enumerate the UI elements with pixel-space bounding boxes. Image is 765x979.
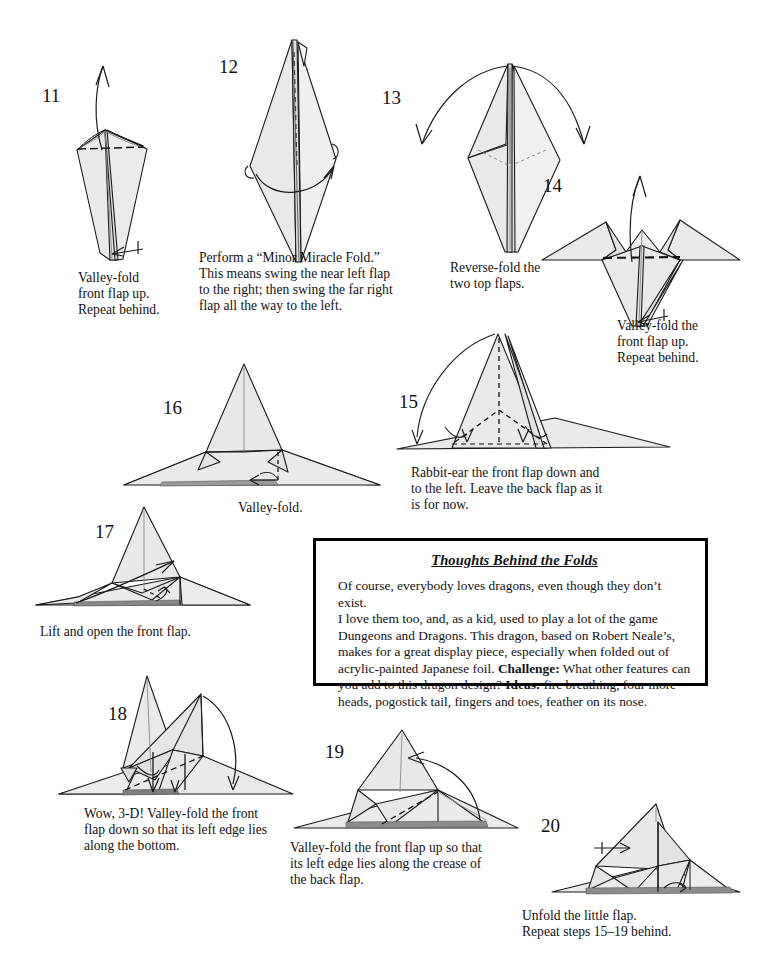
thoughts-line-6c: fire breathing, four more (540, 677, 676, 692)
thoughts-line-1: Of course, everybody loves dragons, even… (338, 578, 661, 610)
figure-step-19 (290, 728, 540, 843)
caption-step-19: Valley-fold the front flap up so that it… (290, 840, 482, 888)
figure-step-11 (55, 28, 195, 278)
instruction-page: 11 (0, 0, 765, 979)
figure-step-15 (395, 322, 700, 457)
step-number-12: 12 (219, 57, 238, 76)
caption-step-18: Wow, 3-D! Valley-fold the front flap dow… (84, 806, 267, 854)
figure-step-16 (110, 352, 400, 492)
thoughts-line-5c: What other features can (560, 661, 691, 676)
caption-step-20: Unfold the little flap. Repeat steps 15–… (522, 908, 672, 940)
caption-step-13: Reverse-fold the two top flaps. (450, 260, 540, 292)
thoughts-line-5a: acrylic-painted Japanese foil. (338, 661, 498, 676)
figure-step-14 (540, 150, 765, 330)
challenge-label: Challenge: (498, 661, 560, 676)
figure-step-20 (530, 800, 765, 905)
thoughts-box-body: Of course, everybody loves dragons, even… (338, 578, 691, 710)
thoughts-line-3: Dungeons and Dragons. This dragon, based… (338, 628, 675, 643)
thoughts-box-title: Thoughts Behind the Folds (338, 552, 691, 569)
caption-step-17: Lift and open the front flap. (40, 624, 191, 640)
caption-step-15: Rabbit-ear the front flap down and to th… (411, 465, 602, 513)
caption-step-11: Valley-fold front flap up. Repeat behind… (78, 270, 160, 318)
thoughts-behind-the-folds-box: Thoughts Behind the Folds Of course, eve… (313, 538, 708, 686)
thoughts-line-7: heads, pogostick tail, fingers and toes,… (338, 694, 647, 709)
ideas-label: Ideas: (505, 677, 540, 692)
figure-step-12 (240, 26, 370, 276)
thoughts-line-6a: you add to this dragon design? (338, 677, 505, 692)
thoughts-line-2: I love them too, and, as a kid, used to … (338, 611, 658, 626)
thoughts-line-4: makes for a great display piece, especia… (338, 644, 669, 659)
step-number-13: 13 (382, 88, 401, 107)
caption-step-12: Perform a “Minor Miracle Fold.” This mea… (199, 250, 393, 314)
figure-step-17 (32, 505, 292, 620)
